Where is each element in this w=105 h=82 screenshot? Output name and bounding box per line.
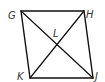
vertex-label-h: H <box>86 9 94 20</box>
parallelogram-diagram: G H J K L <box>0 0 105 82</box>
vertex-label-j: J <box>93 71 98 82</box>
diagonal-hk <box>30 11 84 78</box>
intersection-label-l: L <box>53 28 59 39</box>
vertex-label-g: G <box>8 10 16 21</box>
vertex-label-k: K <box>17 71 25 82</box>
